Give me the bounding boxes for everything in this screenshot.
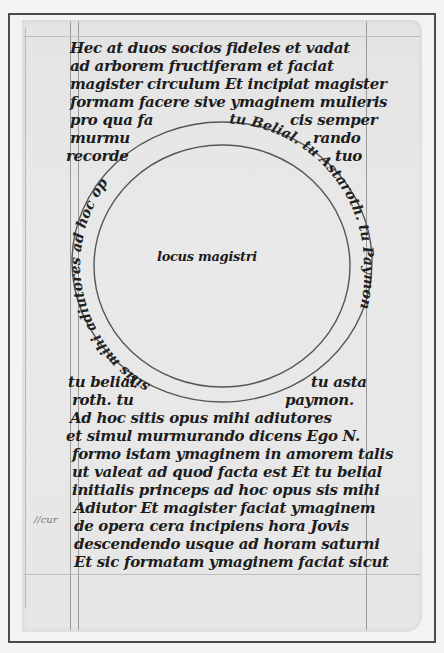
manuscript-line: initialis princeps ad hoc opus sis mihi (72, 481, 380, 499)
manuscript-line-left-fragment: tu belial (68, 373, 135, 391)
manuscript-line: descendendo usque ad horam saturni (74, 535, 380, 553)
manuscript-line: Et sic formatam ymaginem faciat sicut (74, 553, 389, 571)
manuscript-line: formo istam ymaginem in amorem talis (72, 445, 393, 463)
manuscript-line-left-fragment: recorde (66, 147, 128, 165)
manuscript-line-right-fragment: paymon. (285, 391, 354, 409)
manuscript-line: Adiutor Et magister faciat ymaginem (74, 499, 375, 517)
manuscript-line-right-fragment: rando (313, 129, 361, 147)
manuscript-line-left-fragment: roth. tu (72, 391, 134, 409)
manuscript-line: ut valeat ad quod facta est Et tu belial (72, 463, 382, 481)
manuscript-line: Hec at duos socios fideles et vadat (70, 39, 350, 57)
manuscript-line-left-fragment: pro qua fa (70, 111, 153, 129)
manuscript-line: ad arborem fructiferam et faciat (70, 57, 334, 75)
manuscript-line: de opera cera incipiens hora Jovis (74, 517, 349, 535)
manuscript-line: magister circulum Et incipiat magister (70, 75, 387, 93)
manuscript-line: et simul murmurando dicens Ego N. (66, 427, 360, 445)
manuscript-line-right-fragment: tu asta (311, 373, 367, 391)
manuscript-line-right-fragment: cis semper (290, 111, 377, 129)
margin-annotation: //cur (34, 514, 58, 525)
manuscript-line: Ad hoc sitis opus mihi adiutores (70, 409, 332, 427)
circle-center-text: locus magistri (157, 249, 257, 264)
manuscript-line-right-fragment: tuo (335, 147, 362, 165)
inner-circle (94, 145, 350, 387)
manuscript-line-left-fragment: murmu (70, 129, 130, 147)
manuscript-line: formam facere sive ymaginem mulieris (70, 93, 387, 111)
